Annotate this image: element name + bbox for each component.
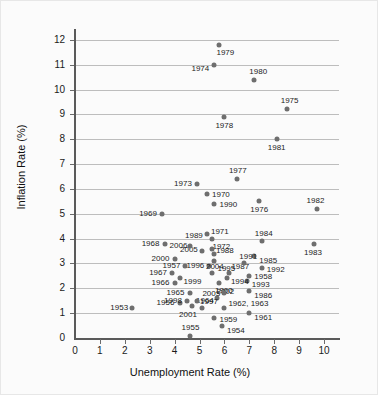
data-point-label: 1990 (219, 201, 237, 209)
data-point-label: 1989 (185, 232, 203, 240)
data-point-label: 1973 (174, 180, 192, 188)
data-point (187, 333, 192, 338)
data-point-label: 1953 (110, 304, 128, 312)
x-tick-mark (200, 339, 201, 344)
data-point-label: 1988 (216, 247, 234, 255)
data-point (284, 107, 289, 112)
x-tick-label: 9 (296, 346, 302, 356)
data-point (162, 241, 167, 246)
data-point-label: 1999 (184, 278, 202, 286)
y-tick-label: 10 (1, 85, 65, 95)
y-tick-label: 9 (1, 109, 65, 119)
data-point (212, 316, 217, 321)
data-point (160, 211, 165, 216)
data-point-label: 1986 (254, 292, 272, 300)
y-tick-label: 12 (1, 35, 65, 45)
data-point-label: 1970 (212, 191, 230, 199)
data-point-label: 1971 (211, 228, 229, 236)
data-point (205, 191, 210, 196)
data-point (212, 201, 217, 206)
gridline (75, 189, 339, 190)
gridline (75, 90, 339, 91)
data-point-label: 1968 (142, 240, 160, 248)
gridline (75, 214, 339, 215)
data-point-label: 1982 (307, 197, 325, 205)
data-point (209, 236, 214, 241)
data-point-label: 1992 (267, 266, 285, 274)
data-point (195, 182, 200, 187)
x-tick-label: 4 (172, 346, 178, 356)
data-point (172, 256, 177, 261)
x-tick-label: 8 (271, 346, 277, 356)
data-point-label: 1969 (139, 210, 157, 218)
data-point (190, 303, 195, 308)
data-point (130, 306, 135, 311)
gridline (75, 40, 339, 41)
data-point-label: 1954 (227, 327, 245, 335)
data-point-label: 1978 (215, 122, 233, 130)
x-tick-label: 10 (318, 346, 329, 356)
x-tick-mark (175, 339, 176, 344)
data-point (200, 249, 205, 254)
data-point (212, 62, 217, 67)
data-point-label: 1997 (200, 298, 218, 306)
data-point-label: 1991 (239, 253, 257, 261)
x-tick-mark (249, 339, 250, 344)
x-tick-mark (100, 339, 101, 344)
data-point-label: 1974 (191, 65, 209, 73)
data-point-label: 1962, 1963 (228, 300, 268, 308)
data-point (170, 271, 175, 276)
x-tick-label: 0 (72, 346, 78, 356)
data-point-label: 1983 (304, 249, 322, 257)
data-point (259, 266, 264, 271)
data-point-label: 1955 (182, 324, 200, 332)
data-point-label: 2003 (202, 290, 220, 298)
gridline (75, 313, 339, 314)
data-point (200, 306, 205, 311)
x-tick-label: 6 (222, 346, 228, 356)
data-point-label: 1966 (152, 279, 170, 287)
y-tick-label: 11 (1, 60, 65, 70)
y-tick-label: 6 (1, 184, 65, 194)
gridline (75, 139, 339, 140)
x-tick-label: 5 (197, 346, 203, 356)
data-point-label: 1996 (186, 262, 204, 270)
data-point-label: 1984 (255, 230, 273, 238)
data-point-label: 1961 (254, 314, 272, 322)
data-point (187, 291, 192, 296)
data-point (209, 246, 214, 251)
data-point (217, 281, 222, 286)
y-tick-label: 2 (1, 283, 65, 293)
x-tick-mark (125, 339, 126, 344)
data-point (222, 291, 227, 296)
data-point (312, 241, 317, 246)
data-point-label: 1998 (164, 297, 182, 305)
data-point (195, 298, 200, 303)
x-tick-label: 2 (122, 346, 128, 356)
gridline (75, 164, 339, 165)
scatter-chart-figure: Inflation Rate (%) Unemployment Rate (%)… (0, 0, 378, 395)
data-point (209, 271, 214, 276)
data-point-label: 1959 (219, 316, 237, 324)
y-tick-label: 7 (1, 159, 65, 169)
y-axis-line (74, 29, 76, 339)
data-point-label: 1977 (229, 167, 247, 175)
y-tick-label: 5 (1, 209, 65, 219)
y-tick-label: 1 (1, 308, 65, 318)
data-point-label: 1981 (268, 144, 286, 152)
y-tick-label: 4 (1, 234, 65, 244)
data-point-label: 2001 (179, 311, 197, 319)
x-tick-label: 3 (147, 346, 153, 356)
y-tick-label: 8 (1, 134, 65, 144)
data-point (177, 276, 182, 281)
data-point (314, 206, 319, 211)
x-tick-label: 1 (97, 346, 103, 356)
data-point (222, 306, 227, 311)
data-point (242, 261, 247, 266)
data-point-label: 2000 (152, 255, 170, 263)
x-tick-mark (224, 339, 225, 344)
data-point (185, 298, 190, 303)
data-point (187, 244, 192, 249)
data-point-label: 1979 (216, 49, 234, 57)
data-point-label: 1976 (250, 206, 268, 214)
